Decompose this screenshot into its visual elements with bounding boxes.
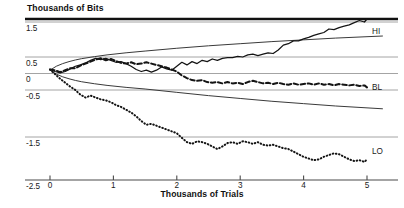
series-label-lo: LO — [372, 147, 383, 156]
data-series-group — [50, 19, 367, 162]
series-label-bl: BL — [372, 83, 382, 92]
series-label-hi: HI — [372, 27, 380, 36]
y-tick-label: 0.5 — [26, 59, 37, 68]
gridlines-group — [25, 22, 398, 137]
x-axis-title: Thousands of Trials — [0, 189, 404, 199]
y-tick-label: -1.5 — [26, 139, 40, 148]
series-bl — [50, 58, 367, 87]
y-tick-label: 1.5 — [26, 24, 37, 33]
y-tick-label: 0 — [26, 75, 31, 84]
chart-plot-area — [0, 0, 404, 208]
chart-container: Thousands of Bits 1.50.50-0.5-1.5-2.5 01… — [0, 0, 404, 208]
envelope-curves-group — [50, 36, 383, 109]
x-axis-group — [25, 176, 398, 181]
lower-envelope — [50, 70, 383, 109]
y-tick-label: -0.5 — [26, 92, 40, 101]
upper-envelope — [50, 36, 383, 70]
